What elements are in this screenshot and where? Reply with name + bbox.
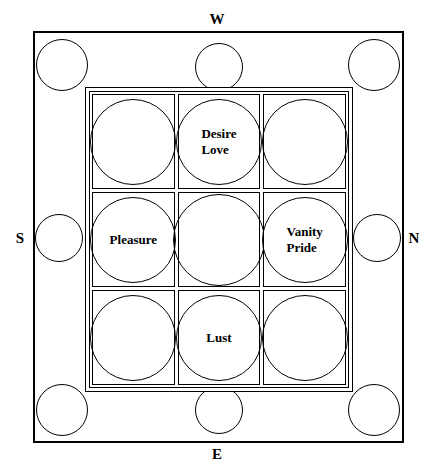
perimeter-circle-middle-left bbox=[35, 214, 83, 262]
grid-cell-label-r1c2: Desire Love bbox=[201, 126, 236, 157]
grid-circle-r2c1: Pleasure bbox=[90, 197, 176, 283]
grid-circle-r3c1 bbox=[90, 295, 176, 381]
compass-label-bottom: E bbox=[0, 447, 434, 462]
grid-circle-r1c3 bbox=[262, 99, 348, 185]
grid-cell-r2c1: Pleasure bbox=[92, 192, 175, 287]
perimeter-circle-bottom-center bbox=[195, 386, 243, 434]
perimeter-circle-bottom-right bbox=[348, 384, 400, 436]
grid-cell-r1c3 bbox=[263, 94, 346, 189]
grid-circle-r3c2: Lust bbox=[176, 295, 262, 381]
grid-cell-r2c3: Vanity Pride bbox=[263, 192, 346, 287]
grid-cell-r3c3 bbox=[263, 290, 346, 385]
compass-label-right: N bbox=[406, 231, 422, 246]
compass-label-top: W bbox=[0, 12, 434, 27]
grid-cell-r1c1 bbox=[92, 94, 175, 189]
grid-cell-r3c1 bbox=[92, 290, 175, 385]
grid-cell-label-r2c3: Vanity Pride bbox=[286, 224, 322, 255]
grid-circle-r2c3: Vanity Pride bbox=[262, 197, 348, 283]
perimeter-circle-bottom-left bbox=[36, 384, 88, 436]
grid-cell-label-r2c1: Pleasure bbox=[110, 232, 157, 247]
compass-label-left: S bbox=[12, 231, 28, 246]
grid-cell-r3c2: Lust bbox=[178, 290, 261, 385]
nine-cell-grid: Desire Love Pleasure Vanity Pride bbox=[92, 94, 346, 385]
perimeter-circle-top-left bbox=[36, 39, 88, 91]
grid-cell-label-r3c2: Lust bbox=[206, 330, 231, 345]
grid-circle-r1c1 bbox=[90, 99, 176, 185]
perimeter-circle-top-right bbox=[348, 39, 400, 91]
grid-cell-r2c2 bbox=[178, 192, 261, 287]
grid-cell-r1c2: Desire Love bbox=[178, 94, 261, 189]
perimeter-circle-top-center bbox=[195, 43, 243, 91]
grid-circle-r1c2: Desire Love bbox=[176, 99, 262, 185]
grid-circle-r3c3 bbox=[262, 295, 348, 381]
grid-circle-r2c2 bbox=[173, 194, 265, 286]
perimeter-circle-middle-right bbox=[353, 214, 401, 262]
diagram-canvas: W E S N Desire Love bbox=[0, 0, 434, 473]
